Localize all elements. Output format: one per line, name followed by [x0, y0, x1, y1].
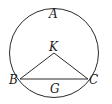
segment-kb	[20, 53, 54, 79]
label-a: A	[48, 7, 58, 21]
segment-kc	[54, 53, 88, 79]
label-b: B	[8, 73, 18, 87]
geometry-diagram: A K B C G	[0, 0, 112, 104]
label-k: K	[48, 40, 59, 54]
label-g: G	[50, 82, 60, 96]
label-c: C	[89, 73, 98, 87]
